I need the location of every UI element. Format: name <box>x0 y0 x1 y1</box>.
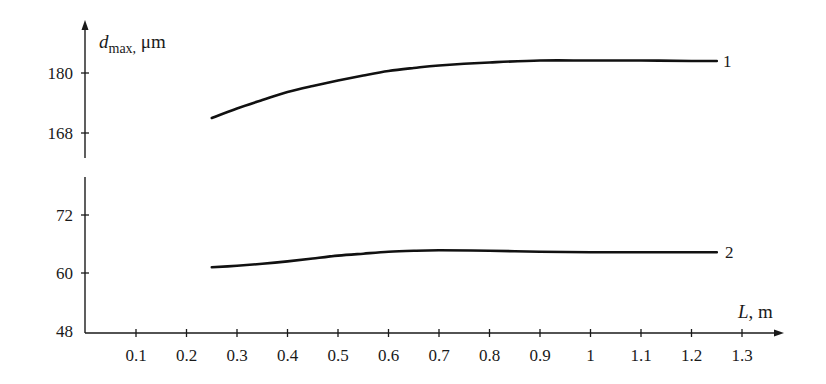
series-2-line <box>212 250 717 267</box>
x-ticks: 0.10.20.30.40.50.60.70.80.911.11.21.3 <box>125 329 752 365</box>
x-axis-arrow-icon <box>774 330 784 337</box>
x-axis-label: L, m <box>737 301 773 322</box>
x-tick-label: 1.1 <box>630 346 651 365</box>
y-axis-arrow-icon <box>82 20 89 30</box>
y-tick-label: 72 <box>56 206 73 225</box>
x-tick-label: 0.3 <box>226 346 247 365</box>
x-tick-label: 0.1 <box>125 346 146 365</box>
x-tick-label: 1 <box>586 346 595 365</box>
y-tick-label: 180 <box>48 64 74 83</box>
series-2-label: 2 <box>725 243 734 262</box>
y-tick-label: 60 <box>56 264 73 283</box>
x-tick-label: 0.2 <box>176 346 197 365</box>
x-tick-label: 0.9 <box>529 346 550 365</box>
x-tick-label: 1.3 <box>731 346 752 365</box>
x-tick-label: 0.5 <box>327 346 348 365</box>
y-tick-label: 48 <box>56 322 73 341</box>
x-tick-label: 0.6 <box>378 346 399 365</box>
x-tick-label: 0.7 <box>428 346 450 365</box>
y-tick-label: 168 <box>48 124 74 143</box>
x-tick-label: 0.8 <box>479 346 500 365</box>
x-tick-label: 0.4 <box>277 346 299 365</box>
line-chart: 168180486072 0.10.20.30.40.50.60.70.80.9… <box>0 0 826 384</box>
x-tick-label: 1.2 <box>681 346 702 365</box>
y-ticks: 168180486072 <box>48 64 90 341</box>
series-1-label: 1 <box>723 52 732 71</box>
y-axis-label: dmax, μm <box>99 31 166 56</box>
series-1-line <box>212 60 717 118</box>
